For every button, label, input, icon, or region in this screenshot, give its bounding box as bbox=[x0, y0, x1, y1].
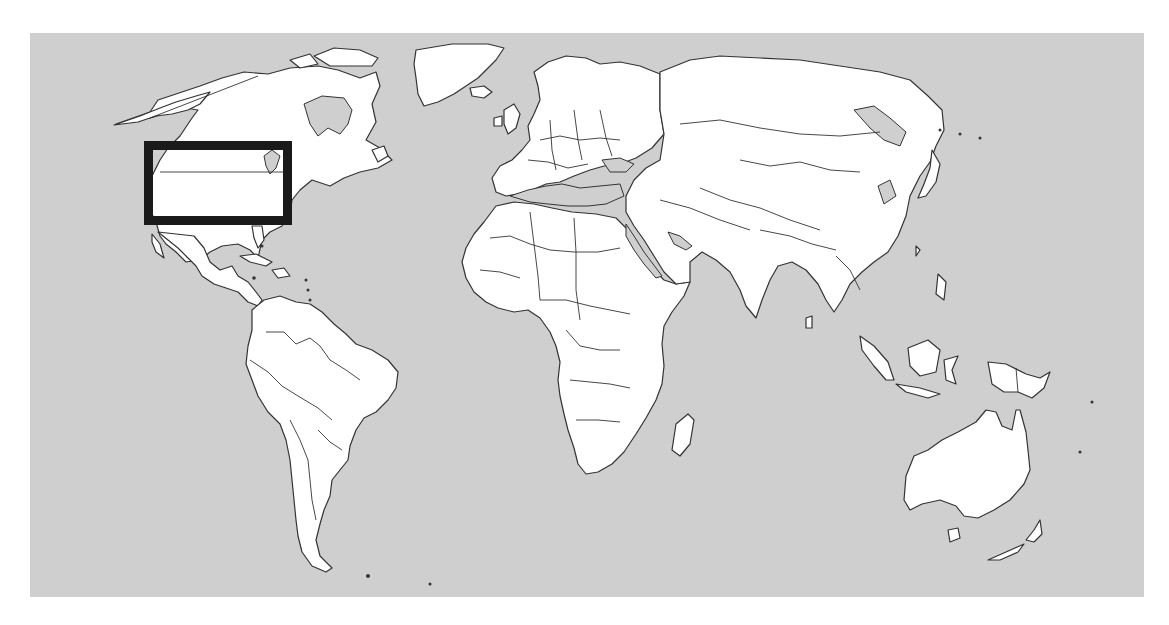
ireland bbox=[494, 116, 502, 126]
world-map-svg bbox=[0, 0, 1169, 625]
sri-lanka bbox=[806, 316, 812, 328]
